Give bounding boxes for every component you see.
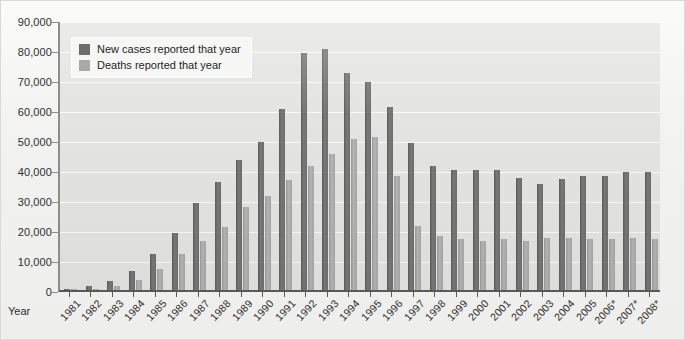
bar-deaths: [136, 280, 142, 291]
bar-new-cases: [559, 179, 565, 290]
bar-new-cases: [64, 289, 70, 290]
x-axis-tick-mark: [606, 292, 607, 297]
bar-new-cases: [344, 73, 350, 291]
bar-deaths: [630, 238, 636, 291]
bar-new-cases: [172, 233, 178, 290]
x-axis-tick-mark: [649, 292, 650, 297]
y-axis-tick-label: 70,000: [0, 76, 52, 88]
bar-deaths: [157, 269, 163, 290]
gridline: [60, 142, 660, 143]
x-axis-tick-mark: [241, 292, 242, 297]
bar-new-cases: [215, 182, 221, 290]
y-axis-tick-label: 60,000: [0, 106, 52, 118]
x-axis-tick-mark: [477, 292, 478, 297]
bar-deaths: [480, 241, 486, 291]
x-axis-tick-mark: [219, 292, 220, 297]
bar-new-cases: [451, 170, 457, 290]
bar-new-cases: [623, 172, 629, 291]
bar-deaths: [415, 226, 421, 291]
gridline: [60, 202, 660, 203]
x-axis-tick-mark: [413, 292, 414, 297]
legend-label-new-cases: New cases reported that year: [97, 43, 241, 55]
x-axis-tick-mark: [434, 292, 435, 297]
y-axis-tick-label: 0: [0, 286, 52, 298]
x-axis-tick-mark: [262, 292, 263, 297]
bar-new-cases: [86, 286, 92, 290]
bar-deaths: [372, 137, 378, 290]
bar-deaths: [609, 239, 615, 290]
legend-item-new-cases: New cases reported that year: [79, 43, 241, 55]
bar-deaths: [351, 139, 357, 291]
x-axis-title: Year: [8, 305, 30, 317]
bar-new-cases: [279, 109, 285, 291]
x-axis-tick-mark: [391, 292, 392, 297]
gridline: [60, 22, 660, 23]
gridline: [60, 112, 660, 113]
y-axis-tick-label: 90,000: [0, 16, 52, 28]
x-axis-tick-mark: [69, 292, 70, 297]
x-axis-tick-mark: [520, 292, 521, 297]
bar-new-cases: [494, 170, 500, 290]
bar-deaths: [394, 176, 400, 290]
bar-deaths: [179, 254, 185, 290]
x-axis-tick-mark: [348, 292, 349, 297]
y-axis-tick-label: 10,000: [0, 256, 52, 268]
bar-new-cases: [602, 176, 608, 290]
y-axis-tick-label: 80,000: [0, 46, 52, 58]
x-axis-tick-mark: [155, 292, 156, 297]
chart-figure: 010,00020,00030,00040,00050,00060,00070,…: [0, 0, 685, 340]
bar-new-cases: [516, 178, 522, 291]
legend-swatch-new-cases-icon: [79, 44, 90, 55]
gridline: [60, 232, 660, 233]
bar-new-cases: [473, 170, 479, 290]
bar-new-cases: [580, 176, 586, 290]
bar-new-cases: [322, 49, 328, 291]
x-axis-tick-mark: [284, 292, 285, 297]
bar-deaths: [243, 207, 249, 290]
x-axis-tick-mark: [112, 292, 113, 297]
bar-deaths: [566, 238, 572, 291]
bar-new-cases: [258, 142, 264, 291]
y-axis-tick-label: 40,000: [0, 166, 52, 178]
bar-new-cases: [301, 53, 307, 290]
x-axis-tick-mark: [563, 292, 564, 297]
bar-new-cases: [236, 160, 242, 291]
y-axis-tick-mark: [52, 292, 58, 293]
bar-deaths: [308, 166, 314, 291]
x-axis-tick-mark: [90, 292, 91, 297]
x-axis-tick-mark: [585, 292, 586, 297]
bar-deaths: [458, 239, 464, 290]
x-axis-tick-mark: [370, 292, 371, 297]
bar-deaths: [544, 238, 550, 291]
bar-deaths: [93, 289, 99, 290]
y-axis-tick-label: 50,000: [0, 136, 52, 148]
x-axis-tick-mark: [456, 292, 457, 297]
bar-deaths: [587, 239, 593, 290]
x-axis-tick-mark: [327, 292, 328, 297]
bar-deaths: [114, 286, 120, 291]
bar-new-cases: [129, 271, 135, 290]
bar-new-cases: [430, 166, 436, 291]
bar-deaths: [222, 227, 228, 290]
bar-deaths: [200, 241, 206, 290]
x-axis-tick-mark: [542, 292, 543, 297]
bar-deaths: [71, 289, 77, 290]
bar-deaths: [437, 236, 443, 290]
chart-legend: New cases reported that year Deaths repo…: [72, 38, 251, 77]
bar-deaths: [652, 239, 658, 290]
y-axis-tick-label: 30,000: [0, 196, 52, 208]
y-axis-tick-label: 20,000: [0, 226, 52, 238]
bar-deaths: [286, 180, 292, 290]
bar-new-cases: [365, 82, 371, 291]
bar-new-cases: [107, 281, 113, 290]
x-axis-tick-mark: [133, 292, 134, 297]
legend-label-deaths: Deaths reported that year: [97, 59, 222, 71]
bar-deaths: [501, 239, 507, 290]
legend-item-deaths: Deaths reported that year: [79, 59, 241, 71]
bar-new-cases: [408, 143, 414, 290]
gridline: [60, 82, 660, 83]
gridline: [60, 172, 660, 173]
x-axis-tick-mark: [499, 292, 500, 297]
bar-new-cases: [150, 254, 156, 290]
legend-swatch-deaths-icon: [79, 60, 90, 71]
